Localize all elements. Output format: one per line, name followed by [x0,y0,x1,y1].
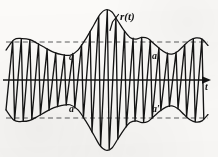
signal-label: r(t) [120,11,135,22]
lower-envelope-path [6,104,208,150]
time-axis-label: t [205,82,208,92]
waveform-canvas [0,0,218,157]
envelope-label-a-lower: a [69,104,74,114]
envelope-label-a-upper: a [69,52,74,62]
envelope-label-a-prime-lower: a′ [152,104,160,114]
time-axis [3,76,211,84]
waveform-figure: r(t) a a a′ a′ t [0,0,218,157]
signal-label-leader-line [110,15,119,31]
envelope-label-a-prime-upper: a′ [152,51,160,61]
